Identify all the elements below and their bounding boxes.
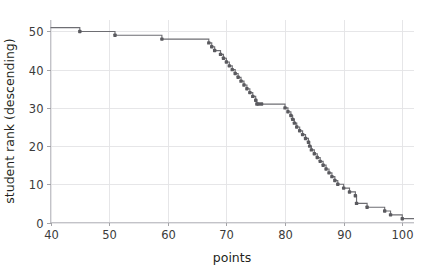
data-point-marker: [354, 194, 357, 197]
data-point-marker: [254, 99, 257, 102]
data-point-marker: [383, 209, 386, 212]
data-point-marker: [324, 167, 327, 170]
data-point-marker: [251, 95, 254, 98]
y-tick-label-30: 30: [29, 102, 44, 116]
x-tick-label-70: 70: [219, 228, 234, 242]
data-point-marker: [289, 114, 292, 117]
data-point-marker: [401, 217, 404, 220]
data-point-marker: [330, 175, 333, 178]
y-tick-label-0: 0: [36, 217, 43, 231]
x-tick-label-50: 50: [102, 228, 117, 242]
data-point-marker: [310, 148, 313, 151]
data-point-marker: [318, 160, 321, 163]
data-point-marker: [298, 129, 301, 132]
data-point-marker: [333, 179, 336, 182]
data-point-marker: [291, 118, 294, 121]
data-point-marker: [160, 37, 163, 40]
data-point-marker: [293, 121, 296, 124]
data-point-marker: [313, 152, 316, 155]
data-point-marker: [225, 60, 228, 63]
x-tick-label-60: 60: [161, 228, 176, 242]
y-axis-title: student rank (descending): [2, 38, 17, 203]
data-point-marker: [78, 30, 81, 33]
data-point-marker: [207, 41, 210, 44]
data-point-marker: [231, 68, 234, 71]
data-point-marker: [222, 57, 225, 60]
data-point-marker: [342, 186, 345, 189]
x-tick-label-100: 100: [392, 228, 414, 242]
data-point-marker: [365, 206, 368, 209]
data-point-marker: [257, 102, 260, 105]
data-point-marker: [327, 171, 330, 174]
data-point-marker: [355, 202, 358, 205]
data-point-marker: [336, 183, 339, 186]
data-point-marker: [316, 156, 319, 159]
data-point-marker: [236, 76, 239, 79]
data-point-marker: [113, 34, 116, 37]
chart-background: [0, 0, 423, 273]
y-tick-label-10: 10: [29, 178, 44, 192]
data-point-marker: [248, 91, 251, 94]
chart-figure: 405060708090100 01020304050 points stude…: [0, 0, 423, 273]
x-tick-label-80: 80: [278, 228, 293, 242]
y-tick-label-40: 40: [29, 64, 44, 78]
data-point-marker: [245, 87, 248, 90]
x-tick-label-90: 90: [337, 228, 352, 242]
data-point-marker: [321, 163, 324, 166]
student-rank-step-chart: 405060708090100 01020304050 points stude…: [0, 0, 423, 273]
data-point-marker: [228, 64, 231, 67]
x-axis-title: points: [213, 250, 251, 265]
data-point-marker: [260, 102, 263, 105]
data-point-marker: [348, 190, 351, 193]
data-point-marker: [307, 141, 310, 144]
y-tick-label-50: 50: [29, 25, 44, 39]
data-point-marker: [233, 72, 236, 75]
data-point-marker: [239, 79, 242, 82]
x-tick-label-40: 40: [44, 228, 59, 242]
data-point-marker: [295, 125, 298, 128]
data-point-marker: [219, 53, 222, 56]
data-point-marker: [286, 110, 289, 113]
data-point-marker: [242, 83, 245, 86]
data-point-marker: [213, 49, 216, 52]
data-point-marker: [308, 144, 311, 147]
data-point-marker: [301, 133, 304, 136]
data-point-marker: [283, 106, 286, 109]
y-tick-label-20: 20: [29, 140, 44, 154]
data-point-marker: [210, 45, 213, 48]
data-point-marker: [304, 137, 307, 140]
data-point-marker: [389, 213, 392, 216]
